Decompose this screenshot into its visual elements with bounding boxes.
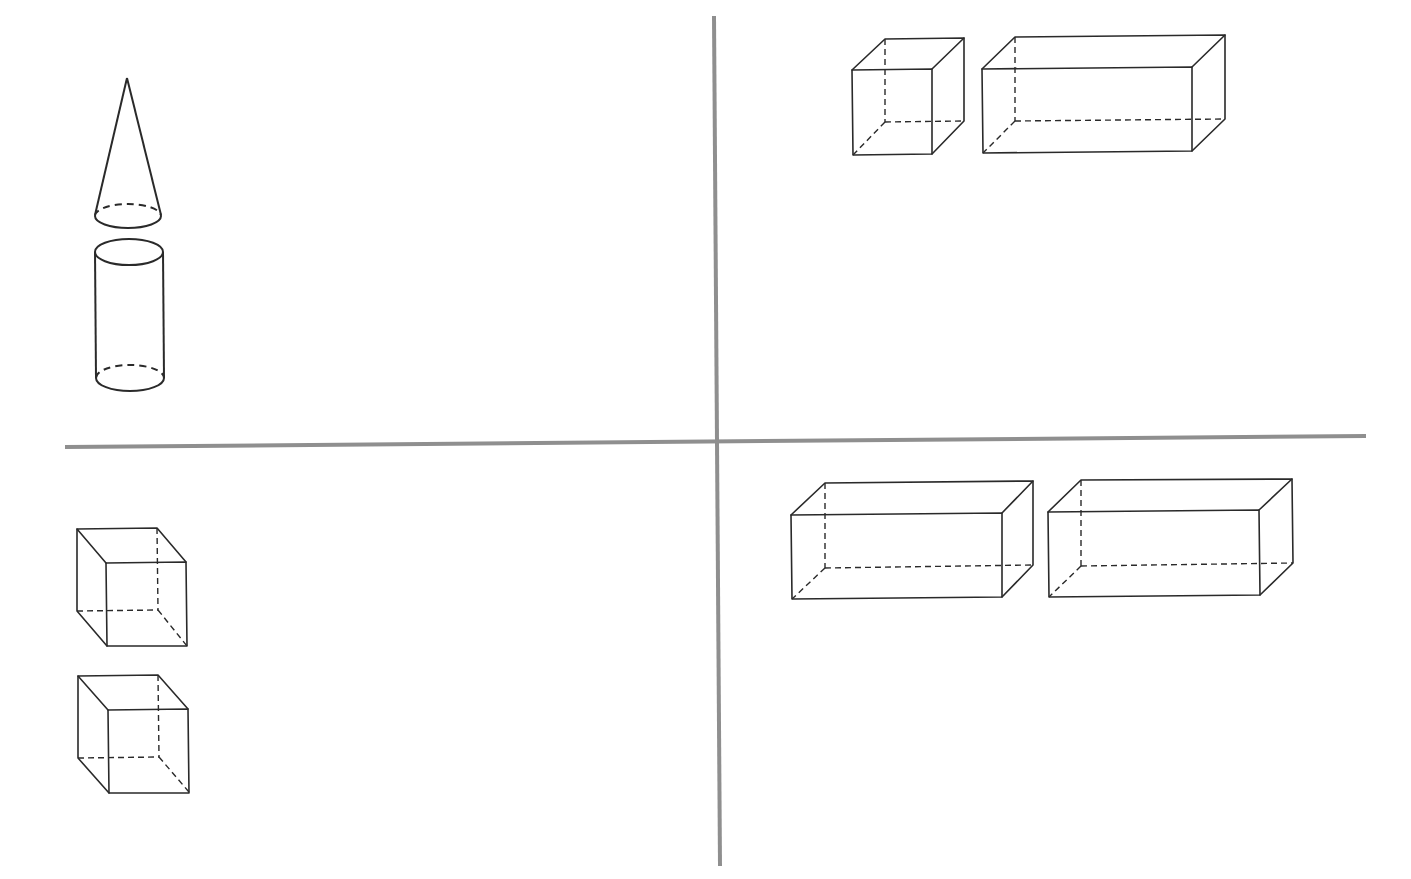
cube-shape xyxy=(77,528,187,646)
diagram-canvas xyxy=(0,0,1411,879)
quadrant-top-right xyxy=(852,35,1225,155)
quadrant-bottom-right xyxy=(791,479,1293,599)
quadrant-dividers xyxy=(65,16,1366,866)
rectangular-prism-shape xyxy=(1048,479,1293,597)
quadrant-top-left xyxy=(95,78,164,391)
rectangular-prism-shape xyxy=(791,481,1033,599)
cube-shape xyxy=(78,675,189,793)
rectangular-prism-shape xyxy=(982,35,1225,153)
cylinder-shape xyxy=(95,239,164,391)
cube-shape xyxy=(852,38,964,155)
cone-shape xyxy=(95,78,161,228)
quadrant-bottom-left xyxy=(77,528,189,793)
